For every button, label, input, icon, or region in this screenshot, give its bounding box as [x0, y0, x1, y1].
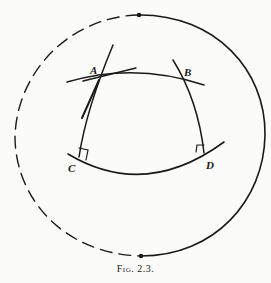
caption-prefix: Fig.	[117, 263, 134, 274]
tangent-mark-on-ac	[82, 80, 99, 118]
outer-circle-solid-arc	[140, 15, 265, 256]
line-ac	[79, 45, 113, 157]
bottom-point-dot	[139, 254, 143, 258]
geometry-diagram	[0, 0, 271, 283]
outer-circle-dashed-arc	[15, 15, 141, 256]
label-point-b: B	[184, 67, 191, 78]
top-point-dot	[137, 13, 142, 18]
figure-2-3: A B C D Fig. 2.3.	[0, 0, 271, 283]
label-point-c: C	[68, 163, 75, 174]
label-point-d: D	[206, 160, 214, 171]
figure-caption: Fig. 2.3.	[0, 263, 271, 274]
caption-number: 2.3.	[137, 263, 154, 274]
label-point-a: A	[90, 65, 97, 76]
arc-cd	[68, 142, 224, 174]
